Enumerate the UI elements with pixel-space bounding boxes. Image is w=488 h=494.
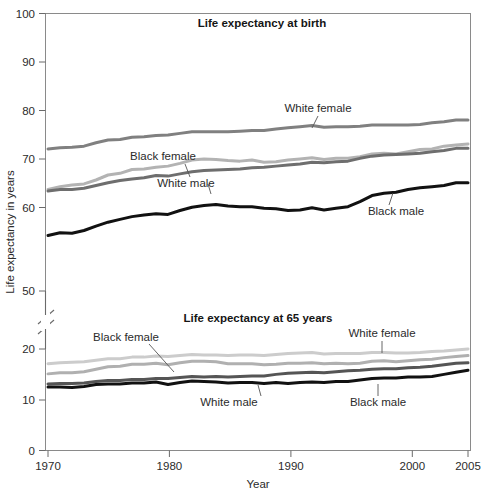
ytick-label-10: 10 bbox=[22, 394, 35, 406]
xtick-label-2005: 2005 bbox=[455, 460, 481, 472]
label-lower-black-male: Black male bbox=[350, 396, 406, 408]
upper-panel-title: Life expectancy at birth bbox=[198, 17, 326, 29]
chart-figure: 100 90 80 70 60 50 20 10 0 Life expectan… bbox=[0, 0, 488, 494]
label-upper-black-female: Black female bbox=[130, 150, 196, 162]
label-upper-white-male: White male bbox=[157, 177, 215, 189]
label-lower-black-female: Black female bbox=[93, 331, 159, 343]
ytick-label-0: 0 bbox=[29, 445, 35, 457]
xtick-label-1990: 1990 bbox=[278, 460, 304, 472]
label-lower-white-male: White male bbox=[200, 396, 258, 408]
label-lower-white-female: White female bbox=[348, 327, 415, 339]
ytick-label-50: 50 bbox=[22, 285, 35, 297]
y-axis-ticks bbox=[39, 14, 46, 451]
y-axis-title: Life expectancy in years bbox=[4, 170, 16, 294]
lower-panel-title: Life expectancy at 65 years bbox=[184, 312, 333, 324]
label-upper-black-male: Black male bbox=[368, 205, 424, 217]
xtick-label-1980: 1980 bbox=[157, 460, 183, 472]
ytick-label-70: 70 bbox=[22, 153, 35, 165]
life-expectancy-chart: 100 90 80 70 60 50 20 10 0 Life expectan… bbox=[0, 0, 488, 494]
ytick-label-60: 60 bbox=[22, 202, 35, 214]
x-axis-ticks bbox=[48, 451, 468, 458]
xtick-label-1970: 1970 bbox=[35, 460, 61, 472]
label-upper-white-female: White female bbox=[284, 102, 351, 114]
ytick-label-90: 90 bbox=[22, 56, 35, 68]
ytick-label-100: 100 bbox=[16, 8, 35, 20]
xtick-label-2000: 2000 bbox=[400, 460, 426, 472]
ytick-label-20: 20 bbox=[22, 343, 35, 355]
ytick-label-80: 80 bbox=[22, 105, 35, 117]
x-axis-title: Year bbox=[246, 478, 269, 490]
